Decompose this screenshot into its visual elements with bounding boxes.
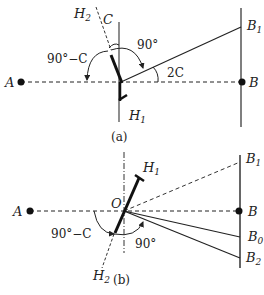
label-b-b: B xyxy=(247,204,258,219)
label-h2-b: H2 xyxy=(92,268,110,285)
label-b1-b: B1 xyxy=(245,151,261,168)
arc-2c-a xyxy=(153,67,158,82)
figure-b: A B O H1 H2 90°−C 90° B1 B0 B2 (b) xyxy=(12,151,264,287)
ray-b0-b xyxy=(124,211,240,237)
label-b2-b: B2 xyxy=(245,250,262,267)
label-b-a: B xyxy=(248,75,259,90)
label-a-a: A xyxy=(4,75,14,90)
caption-a: (a) xyxy=(111,130,128,144)
label-b1-a: B1 xyxy=(246,18,262,35)
arc-90-minus-c-b xyxy=(94,211,114,234)
label-o-b: O xyxy=(111,196,122,211)
label-h1-a: H1 xyxy=(128,108,146,125)
ray-b1-b xyxy=(124,162,240,211)
h2-line-b xyxy=(102,234,114,268)
figure-a: A B H2 C 90° 90°−C 2C H1 B1 (a) xyxy=(4,6,262,144)
label-b0-b: B0 xyxy=(247,229,264,246)
label-h2-a: H2 xyxy=(73,6,91,23)
arc-90-minus-c-a xyxy=(87,51,108,80)
caption-b: (b) xyxy=(113,273,130,287)
label-90-minus-c-b: 90°−C xyxy=(51,227,92,241)
label-90-minus-c-a: 90°−C xyxy=(47,52,88,66)
point-b-a xyxy=(239,79,246,86)
label-2c-a: 2C xyxy=(167,66,184,80)
point-a-b xyxy=(27,208,34,215)
label-90-b: 90° xyxy=(135,237,156,251)
label-c-a: C xyxy=(103,12,113,27)
mirror-a xyxy=(111,55,122,83)
point-a-a xyxy=(18,79,25,86)
label-h1-b: H1 xyxy=(142,160,160,177)
label-a-b: A xyxy=(12,204,22,219)
label-90-a: 90° xyxy=(137,38,158,52)
point-b-b xyxy=(236,208,243,215)
optics-diagram: A B H2 C 90° 90°−C 2C H1 B1 (a) xyxy=(0,0,264,295)
